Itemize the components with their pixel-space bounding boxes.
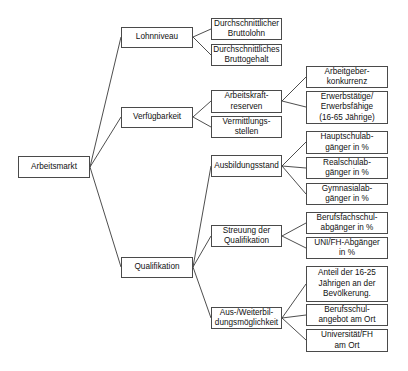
edge-ausbildungsstand-hauptschul (282, 142, 306, 166)
edge-arbeitskraftreserven-arbeitgeberkonkurrenz (282, 77, 306, 101)
node-arbeitskraftreserven: Arbeitskraft- reserven (211, 90, 282, 113)
node-vermittlungsstellen: Vermittlungs- stellen (211, 116, 282, 138)
node-realschul: Realschulab- gänger in % (306, 157, 388, 179)
node-gymnasial: Gymnasialab- gänger in % (306, 183, 388, 205)
edge-arbeitsmarkt-lohnniveau (90, 37, 121, 167)
node-universitaet: Universität/FH am Ort (306, 329, 388, 352)
edge-verfuegbarkeit-vermittlungsstellen (193, 117, 211, 127)
node-anteil: Anteil der 16-25 Jährigen an der Bevölke… (306, 266, 388, 302)
node-unifh: UNI/FH-Abgänger in % (306, 237, 388, 259)
edge-lohnniveau-bruttogehalt (193, 37, 211, 55)
node-lohnniveau: Lohnniveau (121, 27, 193, 48)
node-arbeitsmarkt: Arbeitsmarkt (18, 156, 90, 178)
edge-lohnniveau-bruttolohn (193, 29, 211, 37)
edge-arbeitskraftreserven-erwerbstaetige (282, 101, 306, 107)
edge-qualifikation-ausweiterbildung (193, 267, 211, 318)
edge-verfuegbarkeit-arbeitskraftreserven (193, 101, 211, 117)
edge-ausbildungsstand-gymnasial (282, 166, 306, 194)
node-qualifikation: Qualifikation (121, 257, 193, 278)
node-arbeitgeberkonkurrenz: Arbeitgeber- konkurrenz (306, 66, 388, 88)
node-verfuegbarkeit: Verfügbarkeit (121, 107, 193, 128)
edge-arbeitsmarkt-verfuegbarkeit (90, 117, 121, 167)
edge-ausweiterbildung-universitaet (282, 318, 306, 340)
node-streuung: Streuung der Qualifikation (211, 225, 282, 247)
node-hauptschul: Hauptschulab- gänger in % (306, 131, 388, 154)
node-bruttolohn: Durchschnittlicher Bruttolohn (211, 18, 282, 40)
node-bruttogehalt: Durchschnittliches Bruttogehalt (211, 44, 282, 66)
node-erwerbstaetige: Erwerbstätige/ Erwerbsfähige (16-65 Jähr… (306, 91, 388, 124)
node-berufsfachschul: Berufsfachschul- abgänger in % (306, 212, 388, 234)
edge-ausweiterbildung-anteil (282, 284, 306, 318)
diagram-canvas: Arbeitsmarkt Lohnniveau Verfügbarkeit Qu… (0, 0, 408, 371)
node-ausbildungsstand: Ausbildungsstand (211, 155, 282, 177)
edge-ausweiterbildung-berufsschulangebot (282, 315, 306, 318)
edge-ausbildungsstand-realschul (282, 166, 306, 168)
node-berufsschulangebot: Berufsschul- angebot am Ort (306, 304, 388, 326)
node-ausweiterbildung: Aus-/Weiterbil- dungsmöglichkeit (211, 307, 282, 329)
edge-streuung-unifh (282, 236, 306, 248)
edge-arbeitsmarkt-qualifikation (90, 167, 121, 267)
edge-streuung-berufsfachschul (282, 223, 306, 236)
